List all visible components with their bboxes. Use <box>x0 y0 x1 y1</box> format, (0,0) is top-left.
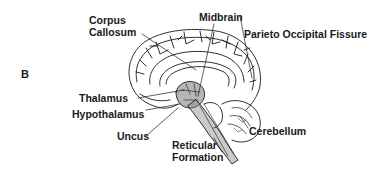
label-uncus: Uncus <box>117 130 149 142</box>
label-reticular-formation-line1: Reticular <box>172 139 217 151</box>
label-cerebellum: Cerebellum <box>249 125 306 137</box>
label-corpus-callosum-line2: Callosum <box>89 26 136 38</box>
label-thalamus: Thalamus <box>79 92 128 104</box>
leader-cerebellum <box>240 116 248 128</box>
label-hypothalamus: Hypothalamus <box>72 108 144 120</box>
label-corpus-callosum-line1: Corpus <box>89 14 126 26</box>
leader-parieto-occipital <box>240 16 252 78</box>
label-midbrain: Midbrain <box>199 11 243 23</box>
panel-letter: B <box>21 68 29 80</box>
brain-diagram: B Corpus Callosum Midbrain Parieto Occip… <box>0 0 388 174</box>
label-reticular-formation-line2: Formation <box>172 151 223 163</box>
leader-uncus <box>146 108 178 136</box>
label-parieto-occipital-fissure: Parieto Occipital Fissure <box>244 28 367 40</box>
